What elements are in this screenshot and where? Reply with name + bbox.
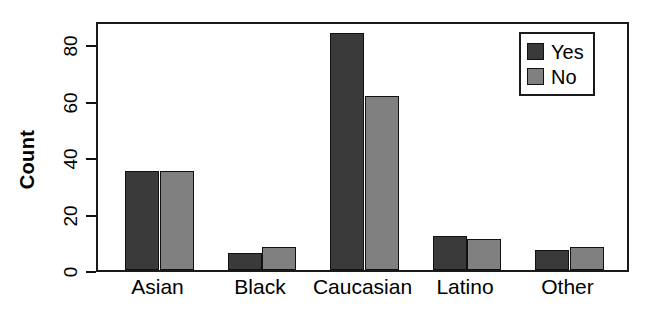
- bar-chart: Count 020406080 YesNo AsianBlackCaucasia…: [0, 0, 654, 319]
- y-tick-mark: [86, 158, 96, 160]
- legend-swatch-no: [527, 68, 544, 85]
- x-axis-label-black: Black: [234, 276, 285, 297]
- legend-label-yes: Yes: [551, 42, 584, 62]
- bar-caucasian-no: [365, 96, 399, 270]
- y-tick-mark: [86, 215, 96, 217]
- bar-caucasian-yes: [330, 33, 364, 270]
- y-tick-label: 40: [57, 146, 83, 172]
- bar-asian-no: [160, 171, 194, 270]
- y-tick-label: 0: [57, 259, 83, 285]
- x-axis-label-asian: Asian: [131, 276, 184, 297]
- y-tick-mark: [86, 102, 96, 104]
- x-axis: AsianBlackCaucasianLatinoOther: [96, 276, 629, 316]
- bar-asian-yes: [125, 171, 159, 270]
- y-tick-label: 80: [57, 33, 83, 59]
- x-axis-label-latino: Latino: [436, 276, 493, 297]
- bar-black-yes: [228, 253, 262, 270]
- bar-other-no: [570, 247, 604, 270]
- legend-item-yes: Yes: [527, 39, 584, 64]
- x-axis-label-caucasian: Caucasian: [313, 276, 412, 297]
- y-tick-mark: [86, 45, 96, 47]
- y-tick-label: 20: [57, 203, 83, 229]
- bar-other-yes: [535, 250, 569, 270]
- y-axis: 020406080: [0, 0, 96, 319]
- legend-label-no: No: [551, 67, 577, 87]
- legend-swatch-yes: [527, 43, 544, 60]
- x-axis-label-other: Other: [541, 276, 594, 297]
- legend-item-no: No: [527, 64, 584, 89]
- bar-latino-no: [467, 239, 501, 270]
- y-tick-mark: [86, 271, 96, 273]
- y-tick-label: 60: [57, 90, 83, 116]
- bar-latino-yes: [433, 236, 467, 270]
- bar-black-no: [262, 247, 296, 270]
- chart-legend: YesNo: [519, 32, 595, 96]
